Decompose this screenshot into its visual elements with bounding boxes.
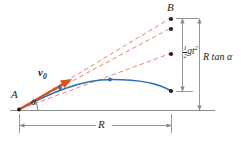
dot-point-B (169, 17, 173, 21)
dot-traj-2 (108, 78, 112, 82)
label-point-B: B (167, 2, 174, 13)
drop-fraction: 12 (183, 45, 187, 59)
dot-traj-1 (58, 86, 62, 90)
drop-expression: gt2 (187, 46, 198, 56)
drop-expression-base: gt (187, 46, 194, 56)
drop-expression-exponent: 2 (195, 44, 198, 51)
label-initial-velocity: v0 (38, 67, 47, 81)
velocity-vector-arrow (19, 79, 72, 110)
figure-canvas (0, 0, 241, 141)
rtan-dimension (197, 18, 201, 111)
label-point-A: A (11, 89, 18, 100)
drop-fraction-numerator: 1 (183, 45, 187, 52)
label-initial-velocity-subscript: 0 (43, 72, 47, 81)
projectile-motion-figure: B A α v0 R 12gt2 R tan α (0, 0, 241, 141)
dot-traj-end (169, 89, 173, 93)
label-vertical-drop: 12gt2 (183, 45, 198, 59)
label-vertical-offset: R tan α (203, 52, 232, 62)
range-dimension (19, 114, 172, 133)
drop-fraction-denominator: 2 (183, 52, 187, 60)
label-launch-angle: α (31, 98, 36, 108)
dot-point-A (17, 108, 21, 112)
trajectory-curve (19, 80, 171, 110)
dot-upper-mid (169, 27, 173, 31)
label-range: R (98, 119, 105, 130)
dot-lower-mid (169, 52, 173, 56)
velocity-arrow-shaft (19, 83, 65, 110)
